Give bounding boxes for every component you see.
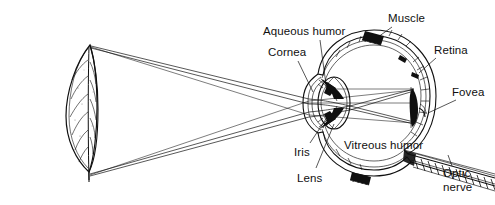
muscle-lower — [350, 172, 371, 185]
label-retina: Retina — [434, 44, 468, 57]
label-optic-nerve-line2: nerve — [443, 181, 472, 195]
label-lens: Lens — [297, 172, 322, 185]
retinal-image — [410, 87, 418, 128]
label-aqueous-humor: Aqueous humor — [263, 25, 346, 38]
leader-fovea — [428, 100, 456, 113]
label-optic-nerve: Optic nerve — [443, 167, 472, 194]
label-optic-nerve-line1: Optic — [443, 167, 472, 181]
leader-optic-nerve — [448, 155, 452, 166]
label-muscle: Muscle — [388, 12, 425, 25]
leaf-object — [66, 45, 98, 182]
label-cornea: Cornea — [268, 46, 306, 59]
light-ray-bundle-lower — [90, 101, 309, 176]
leader-retina — [419, 58, 436, 73]
internal-rays — [303, 89, 414, 124]
label-vitreous-humor: Vitreous humor — [344, 139, 423, 152]
retina-marks — [398, 55, 419, 79]
eye-optics-diagram: Aqueous humor Cornea Muscle Retina Fovea… — [0, 0, 495, 205]
label-iris: Iris — [294, 146, 310, 159]
diagram-artwork — [0, 0, 495, 205]
muscle-upper — [362, 31, 384, 45]
leader-lens — [316, 124, 334, 168]
label-fovea: Fovea — [452, 86, 484, 99]
